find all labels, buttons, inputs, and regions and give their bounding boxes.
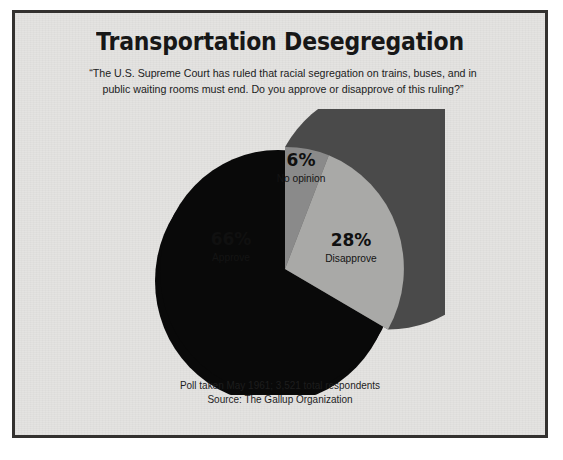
poll-question: “The U.S. Supreme Court has ruled that r… bbox=[78, 65, 488, 97]
poll-question-line-2: public waiting rooms must end. Do you ap… bbox=[78, 81, 488, 97]
page-title: Transportation Desegregation bbox=[47, 27, 513, 56]
label-disapprove-value: 28% bbox=[331, 230, 372, 250]
label-disapprove-name: Disapprove bbox=[325, 253, 377, 264]
label-no-opinion-name: No opinion bbox=[277, 173, 326, 184]
pie-chart-svg: 6% No opinion 28% Disapprove 66% Approve bbox=[115, 109, 445, 395]
label-approve-value: 66% bbox=[211, 229, 252, 249]
poll-source: Source: The Gallup Organization bbox=[26, 393, 535, 407]
pie-chart: 6% No opinion 28% Disapprove 66% Approve bbox=[15, 109, 545, 399]
poll-question-line-1: “The U.S. Supreme Court has ruled that r… bbox=[78, 65, 488, 81]
label-no-opinion-value: 6% bbox=[287, 150, 316, 170]
bordered-panel: Transportation Desegregation “The U.S. S… bbox=[12, 10, 548, 438]
label-approve-name: Approve bbox=[212, 252, 250, 263]
poll-infographic-page: Transportation Desegregation “The U.S. S… bbox=[0, 0, 563, 460]
chart-footnote: Poll taken May 1961; 3,521 total respond… bbox=[26, 379, 535, 407]
poll-meta: Poll taken May 1961; 3,521 total respond… bbox=[26, 379, 535, 393]
